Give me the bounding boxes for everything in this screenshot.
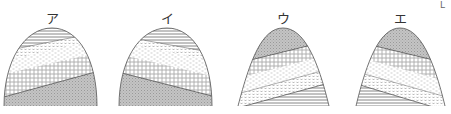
strata-diagrams — [0, 0, 451, 114]
figure-e-strata — [350, 20, 450, 114]
figure-u-strata — [230, 20, 340, 114]
figure-i-strata — [110, 20, 220, 114]
figure-a-strata — [0, 20, 110, 114]
